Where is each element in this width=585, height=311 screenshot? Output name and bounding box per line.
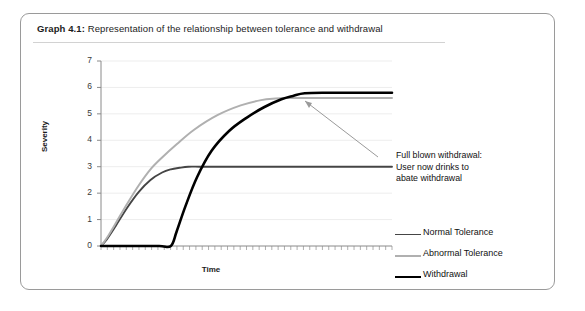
y-tick-label: 6 xyxy=(72,81,92,91)
annotation-line-3: abate withdrawal xyxy=(396,173,482,185)
data-series-group xyxy=(101,93,392,247)
y-axis-title: Severity xyxy=(40,107,49,167)
chart-legend: Normal ToleranceAbnormal ToleranceWithdr… xyxy=(395,226,545,289)
y-tick-label: 3 xyxy=(72,161,92,171)
y-tick-label: 1 xyxy=(72,214,92,224)
legend-label: Withdrawal xyxy=(423,269,468,279)
series-line xyxy=(101,98,392,246)
x-axis-title: Time xyxy=(171,265,251,274)
legend-swatch xyxy=(395,234,421,235)
figure-frame: Graph 4.1: Representation of the relatio… xyxy=(20,13,555,290)
legend-item[interactable]: Normal Tolerance xyxy=(395,226,545,247)
y-tick-label: 5 xyxy=(72,108,92,118)
annotation-arrow xyxy=(305,101,378,157)
withdrawal-annotation: Full blown withdrawal: User now drinks t… xyxy=(396,150,482,185)
legend-item[interactable]: Abnormal Tolerance xyxy=(395,247,545,268)
legend-label: Abnormal Tolerance xyxy=(423,248,503,258)
legend-swatch xyxy=(395,276,421,278)
annotation-line-2: User now drinks to xyxy=(396,162,482,174)
y-tick-label: 2 xyxy=(72,187,92,197)
series-line xyxy=(101,93,392,247)
y-tick-marks-group xyxy=(97,61,101,246)
y-tick-label: 4 xyxy=(72,134,92,144)
y-tick-label: 7 xyxy=(72,55,92,65)
chart-plot-area: Severity Time 76543210 Full blown withdr… xyxy=(21,14,556,291)
legend-item[interactable]: Withdrawal xyxy=(395,268,545,289)
y-tick-label: 0 xyxy=(72,240,92,250)
legend-label: Normal Tolerance xyxy=(423,227,493,237)
legend-swatch xyxy=(395,255,421,257)
gridlines-group xyxy=(101,61,392,220)
annotation-line-1: Full blown withdrawal: xyxy=(396,150,482,162)
